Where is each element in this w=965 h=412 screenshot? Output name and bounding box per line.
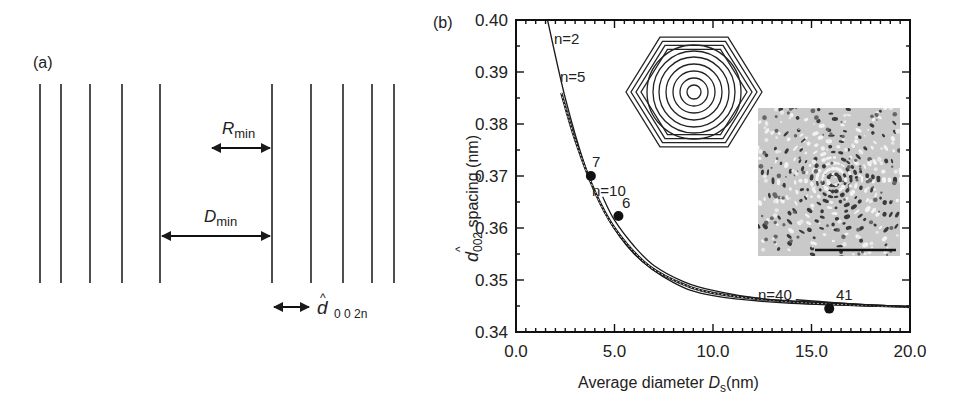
annotation: 7 bbox=[592, 153, 600, 170]
panel-b-label: (b) bbox=[433, 14, 453, 31]
data-point-7 bbox=[586, 171, 596, 181]
tem-image-inset bbox=[758, 108, 900, 256]
data-point-41 bbox=[824, 304, 834, 314]
annotation: n=2 bbox=[554, 30, 579, 47]
y-tick-label: 0.39 bbox=[475, 63, 508, 82]
hexagon-shell-schematic bbox=[626, 37, 762, 147]
x-axis-label: Average diameter Ds(nm) bbox=[578, 374, 759, 395]
x-tick-label: 0.0 bbox=[504, 342, 528, 361]
x-tick-label: 20.0 bbox=[893, 342, 926, 361]
d002-subscript: 0 0 2n bbox=[334, 307, 367, 321]
data-point-6 bbox=[613, 211, 623, 221]
panel-a-label: (a) bbox=[33, 54, 53, 71]
annotation: n=5 bbox=[560, 68, 585, 85]
annotation: 6 bbox=[622, 194, 630, 211]
r-min-label: Rmin bbox=[222, 119, 255, 141]
y-tick-label: 0.38 bbox=[475, 115, 508, 134]
graphene-layer-lines bbox=[40, 84, 394, 283]
y-axis-hat: ^ bbox=[453, 246, 467, 252]
d002-hat: ^ bbox=[320, 291, 326, 305]
x-tick-label: 15.0 bbox=[795, 342, 828, 361]
y-tick-label: 0.40 bbox=[475, 11, 508, 30]
y-tick-label: 0.34 bbox=[475, 323, 508, 342]
y-tick-label: 0.35 bbox=[475, 271, 508, 290]
x-tick-label: 5.0 bbox=[603, 342, 627, 361]
annotation: n=10 bbox=[592, 182, 626, 199]
annotation: n=40 bbox=[758, 286, 792, 303]
x-tick-label: 10.0 bbox=[696, 342, 729, 361]
x-tick-labels: 0.05.010.015.020.0 bbox=[504, 342, 926, 361]
panel-a: (a) Rmin Dmin d ^ 0 0 2n bbox=[33, 54, 394, 321]
d-min-label: Dmin bbox=[204, 207, 237, 229]
y-axis-label: d002 spacing (nm) bbox=[462, 135, 485, 262]
annotation: 41 bbox=[836, 286, 853, 303]
